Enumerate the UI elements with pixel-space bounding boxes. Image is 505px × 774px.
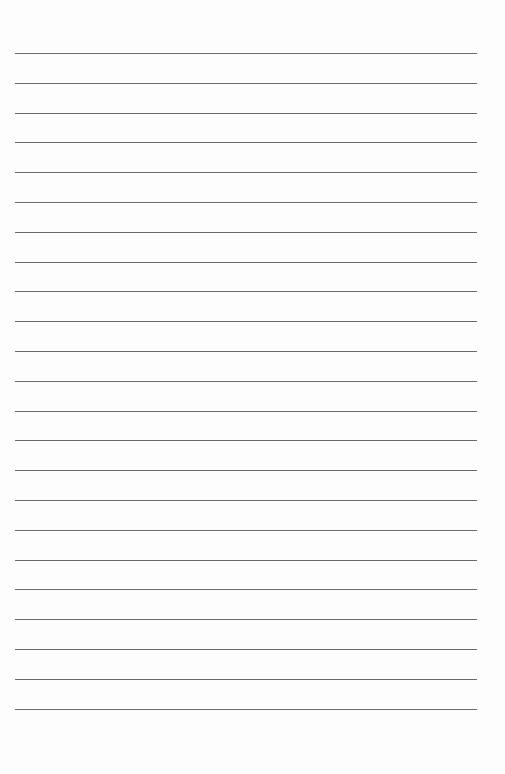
ruled-line (15, 411, 477, 412)
ruled-line (15, 649, 477, 650)
ruled-line (15, 232, 477, 233)
ruled-line (15, 589, 477, 590)
ruled-line (15, 53, 477, 54)
lined-paper-page (0, 0, 505, 774)
ruled-line (15, 470, 477, 471)
ruled-line (15, 113, 477, 114)
ruled-line (15, 321, 477, 322)
ruled-line (15, 679, 477, 680)
ruled-line (15, 530, 477, 531)
ruled-line (15, 291, 477, 292)
ruled-line (15, 351, 477, 352)
ruled-line (15, 619, 477, 620)
ruled-line (15, 142, 477, 143)
ruled-line (15, 560, 477, 561)
ruled-line (15, 500, 477, 501)
ruled-line (15, 202, 477, 203)
ruled-line (15, 172, 477, 173)
ruled-line (15, 262, 477, 263)
ruled-line (15, 440, 477, 441)
ruled-line (15, 83, 477, 84)
ruled-line (15, 709, 477, 710)
ruled-line (15, 381, 477, 382)
